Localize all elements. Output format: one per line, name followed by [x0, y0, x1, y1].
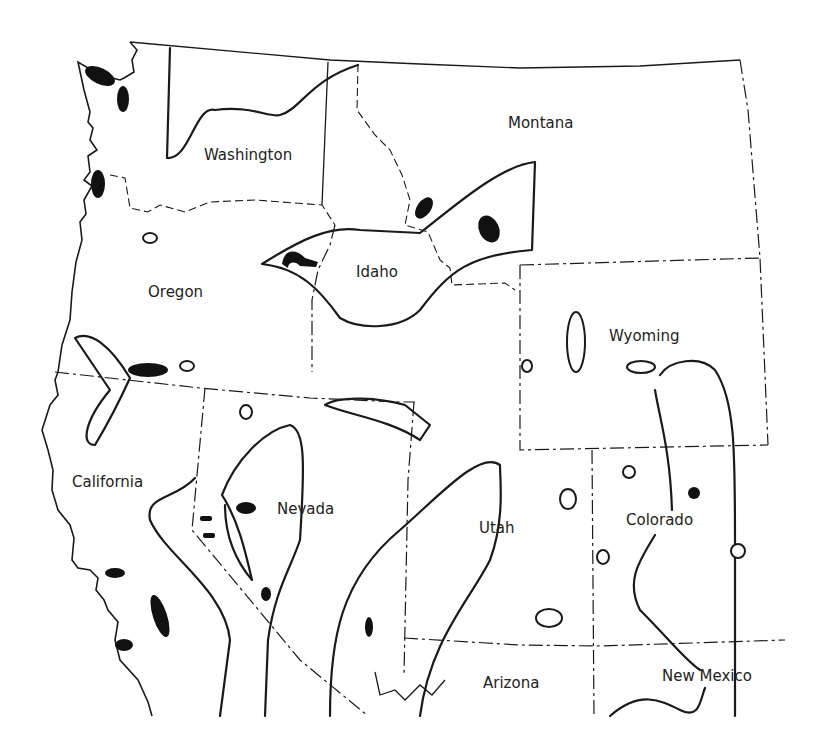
canada-border: [130, 42, 740, 68]
pocket: [731, 544, 745, 558]
label-new-mexico: New Mexico: [662, 667, 752, 685]
label-idaho: Idaho: [356, 263, 398, 281]
label-utah: Utah: [479, 519, 515, 537]
utah-colorado-border: [592, 450, 594, 716]
washington-idaho-border: [322, 62, 328, 205]
colorado-west-contour: [634, 390, 700, 670]
utah-contour: [330, 462, 501, 716]
western-us-map: [0, 0, 817, 756]
blob: [282, 252, 318, 268]
pocket: [567, 312, 585, 372]
pocket: [180, 361, 194, 371]
pocket: [623, 466, 635, 478]
blob: [474, 212, 504, 246]
pocket: [627, 361, 655, 373]
label-oregon: Oregon: [148, 283, 203, 301]
nevada-central-contour: [222, 425, 303, 716]
blob: [91, 170, 105, 198]
label-arizona: Arizona: [483, 674, 539, 692]
blob: [200, 516, 212, 521]
nevada-utah-border: [404, 402, 414, 675]
blob: [261, 587, 271, 601]
colorado-front-contour: [660, 361, 735, 716]
label-california: California: [72, 473, 143, 491]
washington-contour: [167, 48, 358, 158]
california-nevada-border: [192, 388, 368, 716]
pacific-coastline: [42, 42, 152, 716]
pocket: [522, 360, 532, 372]
new-mexico-contour: [610, 688, 705, 716]
idaho-montana-contour: [262, 162, 535, 326]
label-colorado: Colorado: [626, 511, 693, 529]
colorado-river: [375, 672, 445, 700]
blob: [236, 502, 256, 514]
blob: [365, 617, 373, 637]
label-nevada: Nevada: [277, 500, 334, 518]
blob: [117, 86, 129, 112]
label-montana: Montana: [508, 114, 573, 132]
pocket: [597, 550, 609, 564]
blob: [411, 194, 436, 222]
blob: [147, 593, 174, 639]
pocket: [240, 405, 252, 419]
label-washington: Washington: [204, 146, 292, 164]
oregon-california-contour: [75, 336, 130, 445]
blob: [688, 487, 700, 499]
california-nevada-contour: [149, 478, 230, 716]
washington-oregon-border: [110, 175, 335, 225]
blob: [105, 568, 125, 578]
montana-east-border: [740, 60, 768, 445]
blob: [203, 533, 215, 538]
pocket: [560, 489, 576, 509]
pocket: [143, 233, 157, 243]
four-corners-parallel: [404, 638, 785, 646]
blob: [82, 62, 118, 90]
blob: [115, 639, 133, 651]
blob: [128, 363, 168, 377]
label-wyoming: Wyoming: [609, 327, 679, 345]
pocket: [536, 609, 562, 627]
